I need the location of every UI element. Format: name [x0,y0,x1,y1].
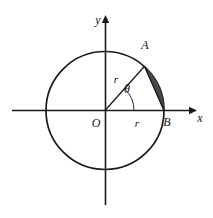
radius-oa-label: r [114,73,119,85]
chord-ab-line [145,66,165,110]
geometry-figure: y x O A B r r θ [0,0,213,218]
point-b-label: B [163,115,171,129]
figure-canvas: y x O A B r r θ [0,0,213,218]
x-axis [12,107,197,114]
radius-ob-label: r [135,117,140,129]
y-axis-label: y [94,13,101,27]
angle-theta-label: θ [124,82,130,96]
y-axis-arrowhead [102,15,109,23]
origin-label: O [92,116,101,130]
x-axis-arrowhead [189,107,197,114]
x-axis-label: x [196,111,203,125]
point-a-label: A [140,38,149,52]
